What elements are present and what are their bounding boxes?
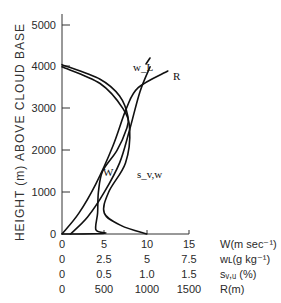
svg-text:5: 5 xyxy=(101,238,107,250)
x-axis-wL: 0 2.5 5 7.5 wʟ(g kg⁻¹) xyxy=(59,253,270,265)
curve-label-R: R xyxy=(173,70,181,82)
svg-text:0: 0 xyxy=(50,228,56,240)
svg-text:10: 10 xyxy=(141,238,153,250)
svg-text:0: 0 xyxy=(59,238,65,250)
svg-text:1.5: 1.5 xyxy=(181,268,196,280)
svg-text:0: 0 xyxy=(59,253,65,265)
svg-text:1000: 1000 xyxy=(135,283,159,295)
svg-text:2000: 2000 xyxy=(32,144,56,156)
curve-w xyxy=(62,65,129,234)
svg-text:7.5: 7.5 xyxy=(181,253,196,265)
svg-text:1.0: 1.0 xyxy=(139,268,154,280)
svg-text:15: 15 xyxy=(183,238,195,250)
data-curves xyxy=(62,58,168,234)
svg-text:500: 500 xyxy=(95,283,113,295)
x-axis-R: 0 500 1000 1500 R(m) xyxy=(59,283,245,295)
svg-text:4000: 4000 xyxy=(32,60,56,72)
x-axis-svw: 0 0.5 1.0 1.5 sᵥ,ᵤ (%) xyxy=(59,268,257,280)
svg-text:0: 0 xyxy=(59,268,65,280)
chart-figure: HEIGHT (m) ABOVE CLOUD BASE 5000 4000 30… xyxy=(0,0,281,303)
svg-text:0.5: 0.5 xyxy=(96,268,111,280)
svg-text:1500: 1500 xyxy=(177,283,201,295)
svg-text:R(m): R(m) xyxy=(220,283,244,295)
curve-label-svw: s_v,w xyxy=(137,168,162,180)
svg-text:3000: 3000 xyxy=(32,102,56,114)
y-ticks xyxy=(62,25,70,192)
svg-text:wʟ(g kg⁻¹): wʟ(g kg⁻¹) xyxy=(219,253,270,265)
x-axis-W: 0 5 10 15 W(m sec⁻¹) xyxy=(59,238,277,250)
y-axis-label: HEIGHT (m) ABOVE CLOUD BASE xyxy=(13,23,27,241)
curve-label-W: W xyxy=(103,166,114,178)
curve-label-wL: w_L xyxy=(133,61,153,73)
svg-text:5000: 5000 xyxy=(32,19,56,31)
svg-text:W(m sec⁻¹): W(m sec⁻¹) xyxy=(220,238,277,250)
y-tick-labels: 5000 4000 3000 2000 1000 0 xyxy=(32,19,56,240)
svg-text:sᵥ,ᵤ (%): sᵥ,ᵤ (%) xyxy=(220,268,256,280)
svg-text:1000: 1000 xyxy=(32,186,56,198)
svg-text:5: 5 xyxy=(144,253,150,265)
svg-text:0: 0 xyxy=(59,283,65,295)
svg-text:2.5: 2.5 xyxy=(96,253,111,265)
